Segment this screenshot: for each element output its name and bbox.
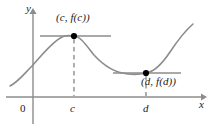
calculus-extrema-figure: (c, f(c)) (d, f(d)) y x c d 0 — [0, 0, 212, 131]
local-maximum-point — [71, 33, 77, 39]
local-minimum-label: (d, f(d)) — [141, 76, 176, 87]
figure-canvas — [0, 0, 212, 131]
local-maximum-label: (c, f(c)) — [56, 12, 90, 23]
x-tick-label-d: d — [143, 103, 149, 114]
origin-label: 0 — [20, 103, 26, 114]
y-axis-label: y — [26, 3, 31, 14]
x-axis-label: x — [199, 99, 204, 110]
x-tick-label-c: c — [70, 103, 75, 114]
